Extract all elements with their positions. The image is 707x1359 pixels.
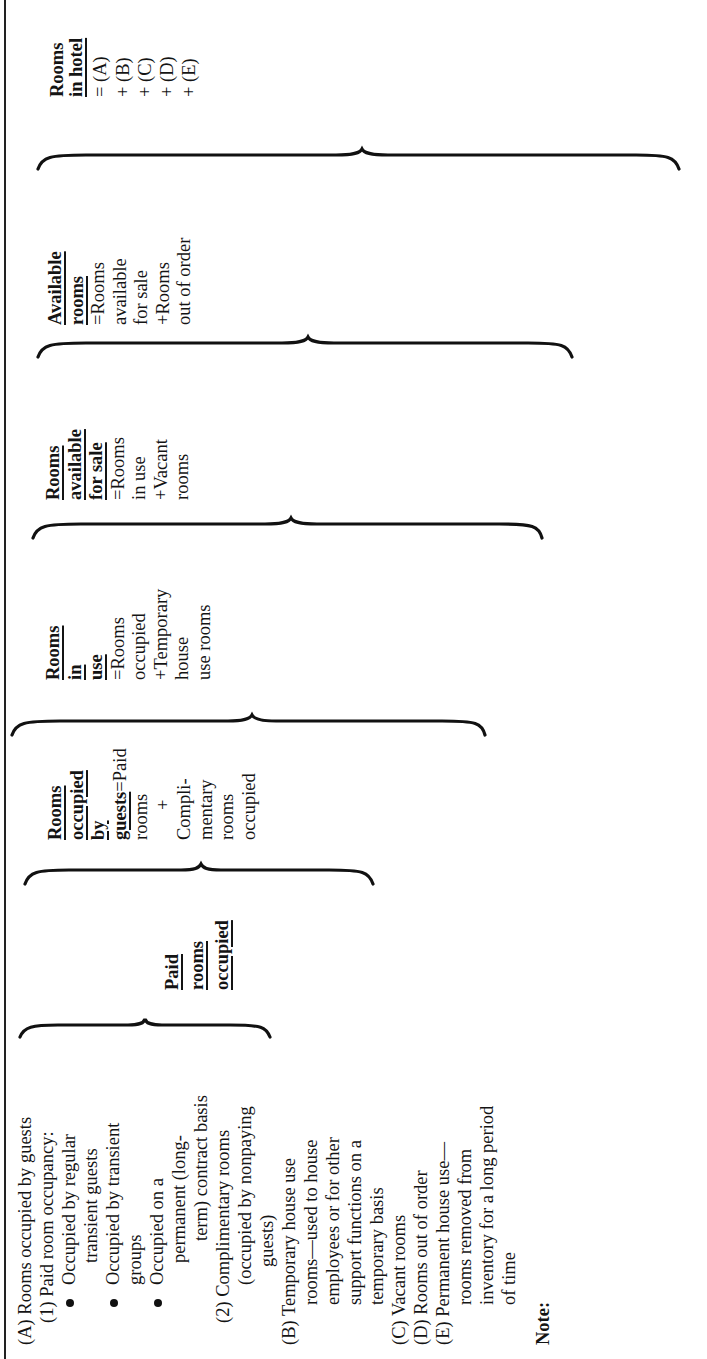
- list-item-text: (2) Complimentary rooms: [213, 1130, 233, 1323]
- heading-line: Rooms: [43, 626, 63, 680]
- list-item-text: (occupied by nonpaying: [235, 1106, 255, 1285]
- brace-rooms-in-use: [10, 713, 487, 737]
- definition-available-rooms: Available rooms =Rooms available for sal…: [45, 238, 196, 325]
- formula-line: out of order: [174, 238, 194, 325]
- list-continuation: of time: [498, 1095, 520, 1345]
- list-item-e: (E) Permanent house use—: [432, 1095, 454, 1345]
- list-item-text: permanent (long-: [169, 1135, 189, 1263]
- list-item-text: Occupied by transient: [103, 1123, 123, 1285]
- heading-text: in hotel: [66, 38, 86, 97]
- list-continuation: term) contract basis: [190, 1095, 212, 1345]
- heading-line: Available: [45, 251, 65, 325]
- list-continuation: transient guests: [80, 1095, 102, 1345]
- heading-line: for sale: [86, 442, 106, 500]
- list-item-text: Occupied on a: [147, 1178, 167, 1285]
- formula-line: house: [172, 637, 192, 680]
- list-continuation: rooms—used to house: [300, 1095, 322, 1345]
- list-item-text: (B) Temporary house use: [279, 1158, 299, 1345]
- formula-line: =Rooms: [88, 262, 108, 325]
- heading-line: by: [88, 820, 108, 840]
- heading-line: rooms: [187, 941, 207, 990]
- list-bullet-item: Occupied on a: [146, 1095, 168, 1345]
- list-item-text: of time: [499, 1252, 519, 1305]
- formula-line: = (A): [90, 56, 110, 97]
- list-item-c: (C) Vacant rooms: [388, 1095, 410, 1345]
- list-item-text: (D) Rooms out of order: [411, 1170, 431, 1345]
- list-item-text: temporary basis: [367, 1187, 387, 1305]
- list-continuation: groups: [124, 1095, 146, 1345]
- bullet-icon: [154, 1299, 162, 1307]
- formula-line: +Vacant: [151, 439, 171, 500]
- list-item-text: rooms—used to house: [301, 1140, 321, 1305]
- brace-rooms-occupied-by-guests: [23, 862, 375, 886]
- list-item-text: Occupied by regular: [59, 1134, 79, 1285]
- list-item-text: guests): [257, 1215, 277, 1267]
- bullet-icon: [110, 1299, 118, 1307]
- list-continuation: support functions on a: [344, 1095, 366, 1345]
- formula-line: Compli-: [174, 778, 194, 840]
- formula-line: use rooms: [194, 604, 214, 680]
- list-continuation: inventory for a long period: [476, 1095, 498, 1345]
- heading-line: Rooms: [47, 43, 67, 97]
- formula-line: rooms: [217, 794, 237, 840]
- list-bullet-item: Occupied by transient: [102, 1095, 124, 1345]
- definition-rooms-occupied-by-guests: Rooms occupied by guests=Paid rooms + Co…: [45, 748, 260, 840]
- list-item-a-1: (1) Paid room occupancy:: [36, 1095, 58, 1345]
- formula-line: =Rooms: [108, 617, 128, 680]
- heading-line: Rooms: [43, 446, 63, 500]
- formula-line: +Rooms: [153, 262, 173, 325]
- list-item-text: inventory for a long period: [477, 1106, 497, 1305]
- formula-line: + (D): [157, 56, 177, 97]
- list-continuation: employees or for other: [322, 1095, 344, 1345]
- formula-line: occupied: [129, 613, 149, 680]
- list-item-a: (A) Rooms occupied by guests: [14, 1095, 36, 1345]
- list-item-text: (A) Rooms occupied by guests: [15, 1117, 35, 1345]
- list-continuation: guests): [256, 1095, 278, 1345]
- list-bullet-item: Occupied by regular: [58, 1095, 80, 1345]
- formula-line: in use: [129, 456, 149, 500]
- heading-line: rooms: [67, 276, 87, 325]
- formula-line: rooms: [172, 454, 192, 500]
- heading-line: in: [65, 665, 85, 680]
- formula-line: + (B): [113, 57, 133, 97]
- spacer: [520, 1095, 532, 1345]
- formula-line: + (C): [135, 57, 155, 97]
- room-categories-list: (A) Rooms occupied by guests (1) Paid ro…: [14, 1095, 554, 1345]
- formula-line: + (E): [179, 58, 199, 97]
- rotated-document-page: Rooms in hotel = (A) + (B) + (C) + (D) +…: [0, 0, 707, 1359]
- list-item-text: groups: [125, 1235, 145, 1285]
- heading-line: Paid: [162, 954, 182, 990]
- heading-line: occupied: [212, 920, 232, 990]
- formula-line: rooms: [131, 794, 151, 840]
- formula-line: +: [153, 800, 173, 840]
- list-item-d: (D) Rooms out of order: [410, 1095, 432, 1345]
- list-item-b: (B) Temporary house use: [278, 1095, 300, 1345]
- brace-rooms-in-hotel: [36, 147, 681, 171]
- definition-rooms-in-use: Rooms in use =Rooms occupied +Temporary …: [43, 589, 215, 680]
- brace-paid-rooms-occupied: [18, 1017, 272, 1039]
- formula-line: available: [110, 258, 130, 325]
- page-left-border-line: [4, 0, 6, 1359]
- list-continuation: permanent (long-: [168, 1095, 190, 1345]
- formula-line: +Temporary: [151, 589, 171, 680]
- formula-line: =Paid: [110, 748, 130, 791]
- list-item-text: term) contract basis: [191, 1095, 211, 1241]
- heading-line: in hotel: [66, 38, 86, 97]
- formula-line: occupied: [239, 773, 259, 840]
- list-item-text: transient guests: [81, 1148, 101, 1263]
- formula-line: for sale: [131, 270, 151, 325]
- formula-line: =Rooms: [108, 437, 128, 500]
- list-continuation: (occupied by nonpaying: [234, 1095, 256, 1345]
- list-item-text: rooms removed from: [455, 1149, 475, 1305]
- heading-line: use: [86, 654, 106, 680]
- list-item-a-2: (2) Complimentary rooms: [212, 1095, 234, 1345]
- formula-line: mentary: [196, 779, 216, 840]
- list-item-text: (1) Paid room occupancy:: [37, 1131, 57, 1323]
- list-continuation: temporary basis: [366, 1095, 388, 1345]
- list-item-text: (C) Vacant rooms: [389, 1215, 409, 1345]
- brace-rooms-available-for-sale: [31, 516, 544, 540]
- list-continuation: rooms removed from: [454, 1095, 476, 1345]
- heading-line: occupied: [67, 770, 87, 840]
- heading-line: available: [65, 429, 85, 500]
- bullet-icon: [66, 1299, 74, 1307]
